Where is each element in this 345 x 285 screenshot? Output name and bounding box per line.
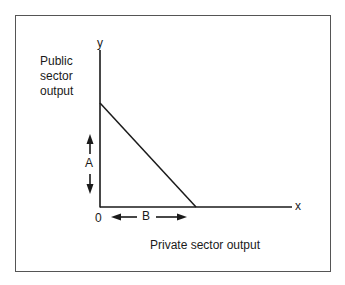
b-label: B xyxy=(142,209,150,224)
y-axis-title: Public sector output xyxy=(40,54,100,99)
y-axis-title-line: Public xyxy=(40,54,100,69)
y-axis-title-line: sector xyxy=(40,69,100,84)
y-axis-title-line: output xyxy=(40,84,100,99)
x-axis-title: Private sector output xyxy=(120,238,290,253)
y-axis-symbol: y xyxy=(97,36,103,51)
frontier-line xyxy=(100,103,196,207)
a-label: A xyxy=(85,156,93,171)
x-axis-symbol: x xyxy=(295,199,301,214)
origin-label: 0 xyxy=(95,211,102,226)
